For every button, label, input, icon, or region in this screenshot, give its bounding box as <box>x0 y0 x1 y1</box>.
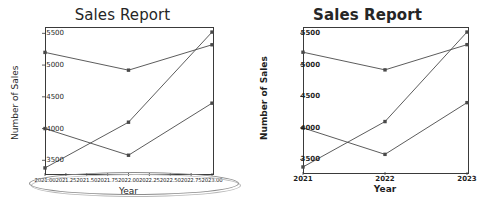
data-point-marker <box>210 43 213 46</box>
data-point-marker <box>301 165 304 168</box>
y-tick-label: 3500 <box>46 156 64 164</box>
x-tick-label: 2022.00 <box>118 177 139 183</box>
data-point-marker <box>465 30 468 33</box>
x-axis-label-left: Year <box>45 186 212 196</box>
y-axis-label-right: Number of Sales <box>259 56 269 140</box>
data-point-marker <box>383 153 386 156</box>
x-tick-label: 2023 <box>457 175 476 183</box>
y-tick-label: 4000 <box>46 125 64 133</box>
plot-lines-right <box>245 0 490 209</box>
x-tick-label: 2021.75 <box>97 177 118 183</box>
data-line <box>303 45 467 70</box>
x-tick-label: 2021 <box>293 175 312 183</box>
data-point-marker <box>43 51 46 54</box>
data-point-marker <box>127 121 130 124</box>
y-tick-label: 5000 <box>301 61 320 69</box>
data-point-marker <box>210 30 213 33</box>
data-line <box>45 103 212 155</box>
y-tick-label: 5000 <box>46 61 64 69</box>
x-tick-label: 2021.00 <box>35 177 56 183</box>
data-point-marker <box>301 51 304 54</box>
data-line <box>303 103 467 155</box>
y-tick-label: 4500 <box>301 92 320 100</box>
x-tick-label: 2022.25 <box>139 177 160 183</box>
data-point-marker <box>465 43 468 46</box>
sales-report-figure: Sales Report Number of Sales Year 350040… <box>0 0 490 209</box>
data-point-marker <box>127 154 130 157</box>
data-point-marker <box>127 68 130 71</box>
data-point-marker <box>383 120 386 123</box>
data-point-marker <box>465 101 468 104</box>
x-tick-label: 2022.75 <box>181 177 202 183</box>
x-tick-label: 2023.00 <box>202 177 223 183</box>
y-axis-label-left: Number of Sales <box>10 65 20 140</box>
data-point-marker <box>383 68 386 71</box>
chart-panel-left: Sales Report Number of Sales Year 350040… <box>0 0 245 209</box>
y-tick-label: 4000 <box>301 124 320 132</box>
x-tick-label: 2021.25 <box>55 177 76 183</box>
x-tick-label: 2022.50 <box>160 177 181 183</box>
data-point-marker <box>210 101 213 104</box>
x-tick-label: 2021.50 <box>76 177 97 183</box>
data-point-marker <box>43 166 46 169</box>
x-axis-label-right: Year <box>303 184 467 194</box>
x-tick-label: 2022 <box>375 175 394 183</box>
y-tick-label: 5500 <box>46 29 64 37</box>
y-tick-label: 4500 <box>46 93 64 101</box>
y-tick-label: 5500 <box>301 29 320 37</box>
y-tick-label: 3500 <box>301 155 320 163</box>
chart-panel-right: Sales Report Number of Sales Year 350040… <box>245 0 490 209</box>
data-line <box>45 45 212 70</box>
